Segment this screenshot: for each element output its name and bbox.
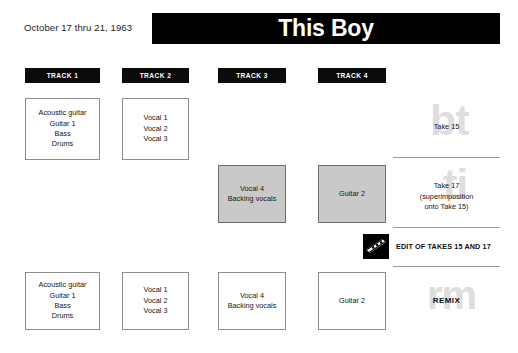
cell-line: Vocal 2 <box>144 296 168 306</box>
cell-line: Guitar 1 <box>50 119 76 129</box>
note-line: Take 15 <box>393 122 500 133</box>
track-cell: Acoustic guitar Guitar 1 Bass Drums <box>25 272 100 330</box>
cell-line: Bass <box>54 301 70 311</box>
track-header-2: TRACK 2 <box>122 68 189 83</box>
remix-label: REMIX <box>393 296 500 305</box>
note-line: onto Take 15) <box>393 202 500 213</box>
cell-line: Backing vocals <box>228 194 277 204</box>
cell-line: Vocal 4 <box>240 184 264 194</box>
cell-line: Vocal 2 <box>144 124 168 134</box>
cell-line: Vocal 4 <box>240 291 264 301</box>
track-header-1: TRACK 1 <box>25 68 100 83</box>
cell-line: Bass <box>54 129 70 139</box>
cell-line: Guitar 1 <box>50 291 76 301</box>
note-line: (superimposition <box>393 192 500 203</box>
track-cell: Vocal 4 Backing vocals <box>218 272 286 330</box>
track-cell: Vocal 1 Vocal 2 Vocal 3 <box>122 98 189 160</box>
cell-line: Vocal 3 <box>144 134 168 144</box>
track-header-label: TRACK 3 <box>236 72 268 79</box>
cell-line: Acoustic guitar <box>39 280 87 290</box>
cell-line: Drums <box>52 311 74 321</box>
watermark-rm: rm <box>427 275 476 315</box>
track-header-label: TRACK 4 <box>336 72 368 79</box>
cell-line: Acoustic guitar <box>39 108 87 118</box>
take-note-15: Take 15 <box>393 122 500 133</box>
section-divider <box>393 157 500 158</box>
track-header-3: TRACK 3 <box>218 68 286 83</box>
section-divider <box>393 227 500 228</box>
track-cell: Vocal 4 Backing vocals <box>218 165 286 223</box>
watermark-bt: bt <box>430 99 469 142</box>
track-header-label: TRACK 2 <box>140 72 172 79</box>
section-divider <box>393 266 500 267</box>
edit-of-takes-row: EDIT OF TAKES 15 AND 17 <box>363 234 491 259</box>
cell-line: Guitar 2 <box>339 296 365 306</box>
track-cell: Guitar 2 <box>318 272 386 330</box>
cell-line: Drums <box>52 139 74 149</box>
cell-line: Vocal 1 <box>144 113 168 123</box>
track-cell: Guitar 2 <box>318 165 386 223</box>
track-header-label: TRACK 1 <box>47 72 79 79</box>
cell-line: Backing vocals <box>228 301 277 311</box>
razor-blade-icon <box>363 234 389 259</box>
page-title: This Boy <box>278 17 374 40</box>
track-cell: Vocal 1 Vocal 2 Vocal 3 <box>122 272 189 330</box>
cell-line: Guitar 2 <box>339 189 365 199</box>
edit-of-takes-label: EDIT OF TAKES 15 AND 17 <box>396 242 491 251</box>
cell-line: Vocal 3 <box>144 306 168 316</box>
song-title-bar: This Boy <box>152 13 500 44</box>
take-note-17: Take 17 (superimposition onto Take 15) <box>393 181 500 213</box>
cell-line: Vocal 1 <box>144 285 168 295</box>
track-header-4: TRACK 4 <box>318 68 386 83</box>
track-cell: Acoustic guitar Guitar 1 Bass Drums <box>25 98 100 160</box>
note-line: Take 17 <box>393 181 500 192</box>
session-date: October 17 thru 21, 1963 <box>24 22 132 33</box>
track-sheet-page: October 17 thru 21, 1963 This Boy TRACK … <box>0 0 518 353</box>
